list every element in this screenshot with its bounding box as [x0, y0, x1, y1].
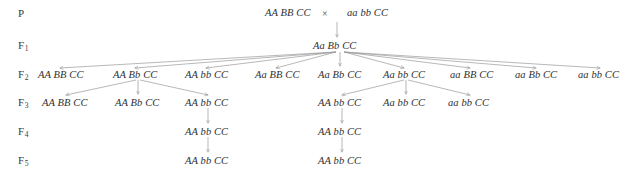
genotype-f2-5: Aa Bb CC	[318, 69, 361, 80]
genotype-f3-4: AA bb CC	[318, 97, 361, 108]
gen-sub-f1: 1	[25, 44, 29, 53]
genotype-f2-7: aa BB CC	[450, 69, 493, 80]
gen-label-f5: F5	[18, 154, 28, 166]
genotype-f3-3: AA bb CC	[185, 97, 228, 108]
cross-symbol: ×	[322, 8, 328, 19]
wire-f2-f3-1	[66, 80, 136, 95]
wire-f1-f2-6	[344, 52, 404, 68]
genotype-f2-2: AA Bb CC	[113, 69, 157, 80]
wire-f2-f3-3	[140, 80, 208, 95]
genotype-f3-1: AA BB CC	[42, 97, 88, 108]
genotype-p-2: aa bb CC	[347, 7, 388, 18]
genotype-f1-1: Aa Bb CC	[313, 40, 356, 51]
wire-f1-f2-3	[206, 52, 336, 68]
genotype-f4-2: AA bb CC	[318, 126, 361, 137]
pedigree-diagram: P F1 F2 F3 F4 F5 AA BB CC × aa bb CC Aa …	[0, 0, 638, 182]
genotype-f3-5: Aa bb CC	[383, 97, 425, 108]
wire-f1-f2-9	[344, 52, 600, 68]
genotype-f2-8: aa Bb CC	[515, 69, 557, 80]
wire-f2-f3-4	[342, 80, 404, 95]
gen-label-f3: F3	[18, 96, 28, 108]
gen-label-f2: F2	[18, 68, 28, 80]
genotype-f2-6: Aa bb CC	[383, 69, 425, 80]
wire-f1-f2-7	[344, 52, 470, 68]
wire-f2-f3-6	[408, 80, 470, 95]
gen-label-f4: F4	[18, 125, 28, 137]
gen-label-p: P	[18, 7, 24, 19]
gen-sub-f5: 5	[25, 159, 29, 168]
wire-f1-f2-1	[60, 52, 336, 68]
genotype-f3-6: aa bb CC	[448, 97, 489, 108]
genotype-f2-1: AA BB CC	[38, 69, 84, 80]
gen-label-f1: F1	[18, 39, 28, 51]
gen-sub-f2: 2	[25, 73, 29, 82]
gen-sub-f3: 3	[25, 101, 29, 110]
wire-f1-f2-4	[276, 52, 336, 68]
wire-f1-f2-2	[135, 52, 336, 68]
genotype-p-1: AA BB CC	[265, 7, 311, 18]
gen-sub-f4: 4	[25, 130, 29, 139]
genotype-f4-1: AA bb CC	[185, 126, 228, 137]
genotype-f2-3: AA bb CC	[185, 69, 228, 80]
genotype-f5-1: AA bb CC	[185, 155, 228, 166]
genotype-f3-2: AA Bb CC	[115, 97, 159, 108]
genotype-f5-2: AA bb CC	[318, 155, 361, 166]
genotype-f2-4: Aa BB CC	[255, 69, 300, 80]
genotype-f2-9: aa bb CC	[578, 69, 619, 80]
wire-f1-f2-8	[344, 52, 536, 68]
